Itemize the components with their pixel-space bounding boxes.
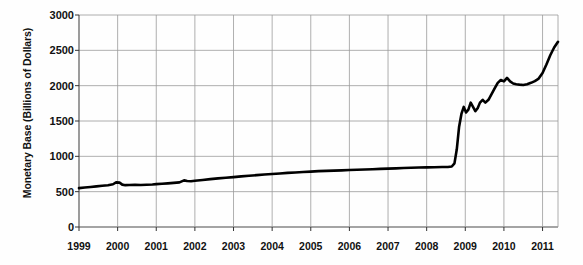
x-tick-label: 2010 xyxy=(492,240,515,252)
x-tick-label: 1999 xyxy=(67,240,90,252)
x-axis-tick-labels: 1999200020012002200320042005200620072008… xyxy=(0,0,583,265)
x-tick-label: 2002 xyxy=(183,240,206,252)
x-tick-label: 2005 xyxy=(299,240,322,252)
x-tick-label: 2007 xyxy=(376,240,399,252)
x-tick-label: 2009 xyxy=(454,240,477,252)
x-tick-label: 2008 xyxy=(415,240,438,252)
x-tick-label: 2003 xyxy=(222,240,245,252)
x-tick-label: 2011 xyxy=(531,240,554,252)
x-tick-label: 2004 xyxy=(260,240,283,252)
x-tick-label: 2006 xyxy=(338,240,361,252)
monetary-base-line-chart: Monetary Base (Billions of Dollars) 0500… xyxy=(0,0,583,265)
x-tick-label: 2000 xyxy=(106,240,129,252)
x-tick-label: 2001 xyxy=(145,240,168,252)
